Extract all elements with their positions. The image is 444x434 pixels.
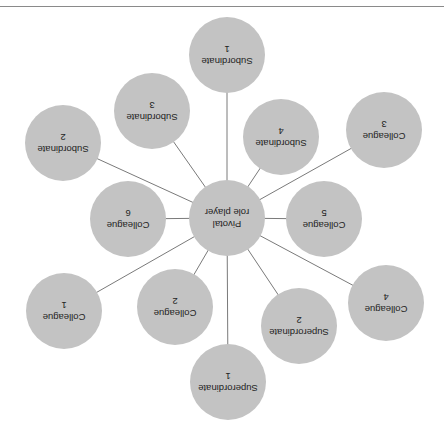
node-label-line1: Subordinate [255, 137, 306, 149]
node-subordinate-2: Subordinate 2 [25, 105, 101, 181]
node-label-line1: Superordinate [198, 382, 258, 394]
node-label-line2: 1 [225, 370, 230, 382]
node-label-line1: Colleague [154, 307, 197, 319]
node-label-line1: Colleague [363, 130, 406, 142]
node-label-line1: Colleague [303, 219, 346, 231]
node-colleague-2: Colleague 2 [137, 269, 213, 345]
node-center-pivotal-role-player: Pivotal role player [189, 180, 265, 256]
node-label-line2: 2 [60, 131, 65, 143]
node-subordinate-3: Subordinate 3 [114, 73, 190, 149]
node-label-line1: Subordinate [126, 111, 177, 123]
node-label-line2: 4 [278, 125, 283, 137]
node-colleague-4: Colleague 4 [348, 265, 424, 341]
node-label-line1: Colleague [107, 219, 150, 231]
node-colleague-1: Colleague 1 [26, 273, 102, 349]
node-label-line2: 2 [296, 314, 301, 326]
node-colleague-3: Colleague 3 [346, 92, 422, 168]
node-superordinate-2: Superordinate 2 [261, 288, 337, 364]
node-label-line1: Colleague [365, 303, 408, 315]
node-superordinate-1: Superordinate 1 [190, 344, 266, 420]
node-label-line2: 3 [149, 99, 154, 111]
node-label-line1: Pivotal [213, 218, 242, 230]
node-label-line2: 3 [381, 118, 386, 130]
node-label-line2: 6 [125, 207, 130, 219]
node-label-line2: 5 [321, 207, 326, 219]
node-label-line2: 1 [224, 43, 229, 55]
node-label-line2: 1 [61, 299, 66, 311]
node-label-line1: Subordinate [37, 143, 88, 155]
node-label-line1: Colleague [43, 311, 86, 323]
node-label-line2: 4 [383, 291, 388, 303]
node-label-line2: role player [205, 206, 249, 218]
node-subordinate-1: Subordinate 1 [189, 17, 265, 93]
node-label-line1: Subordinate [201, 55, 252, 67]
node-label-line1: Superordinate [269, 326, 329, 338]
node-subordinate-4: Subordinate 4 [243, 99, 319, 175]
node-colleague-6: Colleague 6 [90, 181, 166, 257]
node-colleague-5: Colleague 5 [286, 181, 362, 257]
role-network-diagram: Pivotal role player Subordinate 1 Subord… [0, 0, 444, 434]
node-label-line2: 2 [172, 295, 177, 307]
